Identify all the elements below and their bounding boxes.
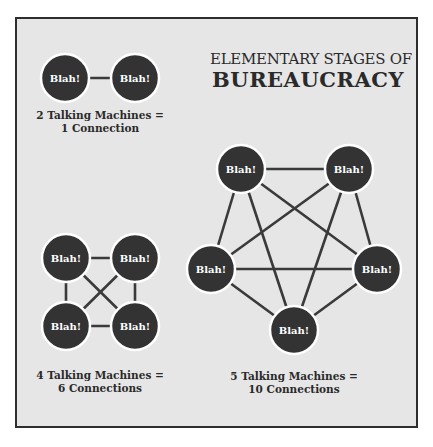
caption-line-1: 5 Talking Machines = <box>224 370 364 383</box>
caption-line-2: 1 Connection <box>30 122 170 135</box>
nodes <box>41 54 401 354</box>
diagram-title: ELEMENTARY STAGES OF BUREAUCRACY <box>210 50 406 92</box>
caption-line-2: 10 Connections <box>224 383 364 396</box>
edge <box>294 169 349 330</box>
node-label: Blah! <box>279 325 309 336</box>
node-label: Blah! <box>51 321 81 332</box>
node-label: Blah! <box>120 253 150 264</box>
node-label: Blah! <box>50 73 80 84</box>
node-label: Blah! <box>334 164 364 175</box>
caption-five-machines: 5 Talking Machines = 10 Connections <box>224 370 364 396</box>
node-label: Blah! <box>226 164 256 175</box>
caption-two-machines: 2 Talking Machines = 1 Connection <box>30 109 170 135</box>
caption-line-1: 4 Talking Machines = <box>30 369 170 382</box>
node-label: Blah! <box>120 73 150 84</box>
caption-four-machines: 4 Talking Machines = 6 Connections <box>30 369 170 395</box>
caption-line-1: 2 Talking Machines = <box>30 109 170 122</box>
edge <box>241 169 294 330</box>
title-line-2: BUREAUCRACY <box>210 68 406 92</box>
node-label: Blah! <box>120 321 150 332</box>
caption-line-2: 6 Connections <box>30 382 170 395</box>
node-label: Blah! <box>196 264 226 275</box>
node-label: Blah! <box>362 264 392 275</box>
node-label: Blah! <box>51 253 81 264</box>
title-line-1: ELEMENTARY STAGES OF <box>210 50 406 68</box>
